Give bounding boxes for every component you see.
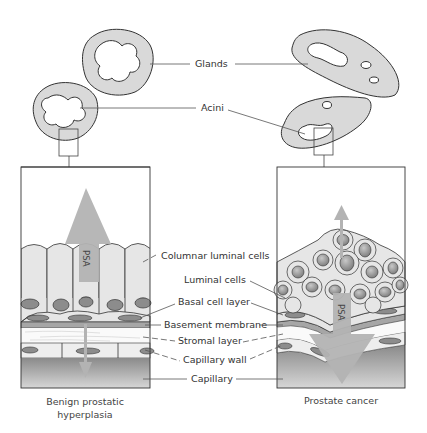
label-capillary: Capillary xyxy=(191,373,233,384)
label-capillary-wall: Capillary wall xyxy=(183,354,247,365)
center-labels: Columnar luminal cells Luminal cells Bas… xyxy=(140,250,285,384)
bph-caption-line2: hyperplasia xyxy=(57,409,112,420)
bph-lower-layers xyxy=(21,297,154,388)
acini-label: Acini xyxy=(201,102,224,113)
bph-gland-upper xyxy=(82,29,153,95)
cancer-psa-label: PSA xyxy=(336,304,346,321)
label-basal-cell-layer: Basal cell layer xyxy=(178,296,250,307)
label-luminal-cells: Luminal cells xyxy=(184,274,246,285)
glands-label: Glands xyxy=(195,58,228,69)
bph-psa-label: PSA xyxy=(81,250,91,267)
bph-gland-lower xyxy=(33,83,98,141)
cancer-gland-upper xyxy=(292,30,399,97)
diagram-canvas: Glands Acini xyxy=(0,0,427,433)
cancer-gland-lower xyxy=(281,97,371,149)
label-stromal-layer: Stromal layer xyxy=(178,335,242,346)
label-basement-membrane: Basement membrane xyxy=(164,319,267,330)
bph-caption-line1: Benign prostatic xyxy=(46,396,124,407)
label-columnar-luminal-cells: Columnar luminal cells xyxy=(161,250,270,261)
cancer-caption: Prostate cancer xyxy=(304,395,378,406)
